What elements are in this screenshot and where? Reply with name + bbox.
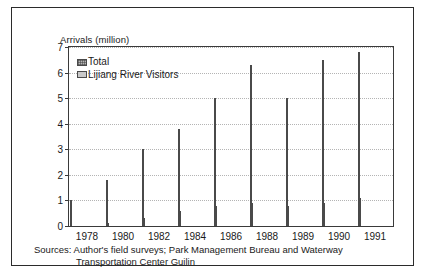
y-axis-tick-label: 4	[57, 118, 63, 129]
bar-lijiang	[215, 206, 217, 226]
bar-lijiang	[251, 203, 253, 226]
legend-label-total: Total	[88, 56, 109, 69]
source-line-2: Transportation Center Guilin	[34, 256, 404, 268]
y-axis-tick-mark	[65, 73, 69, 74]
chart-legend: Total Lijiang River Visitors	[77, 56, 178, 81]
y-axis-tick-mark	[65, 47, 69, 48]
y-axis-tick-mark	[65, 98, 69, 99]
y-axis-tick-label: 5	[57, 93, 63, 104]
x-axis-tick-label: 1986	[220, 231, 242, 242]
y-axis-tick-label: 1	[57, 195, 63, 206]
x-axis-tick-label: 1984	[184, 231, 206, 242]
legend-item-lijiang: Lijiang River Visitors	[77, 69, 178, 82]
y-axis-tick-label: 2	[57, 169, 63, 180]
legend-item-total: Total	[77, 56, 178, 69]
bar-group	[213, 47, 249, 226]
bar-lijiang	[323, 203, 325, 226]
bar-total	[250, 65, 252, 226]
bar-lijiang	[143, 218, 145, 226]
y-axis-tick-label: 7	[57, 42, 63, 53]
bar-total	[322, 60, 324, 226]
y-axis-tick-mark	[65, 200, 69, 201]
bar-group	[321, 47, 357, 226]
bar-group	[177, 47, 213, 226]
bar-lijiang	[287, 206, 289, 226]
y-axis-tick-mark	[65, 175, 69, 176]
x-axis-tick-label: 1982	[148, 231, 170, 242]
source-line-1: Sources: Author's field surveys; Park Ma…	[34, 244, 343, 255]
x-axis-tick-label: 1991	[364, 231, 386, 242]
y-axis-tick-mark	[65, 149, 69, 150]
bar-total	[106, 180, 108, 226]
bar-lijiang	[359, 198, 361, 226]
bar-group	[285, 47, 321, 226]
plot-area: Total Lijiang River Visitors 01234567197…	[68, 46, 394, 227]
x-axis-tick-label: 1978	[76, 231, 98, 242]
legend-label-lijiang: Lijiang River Visitors	[88, 69, 178, 82]
x-axis-tick-label: 1989	[292, 231, 314, 242]
bar-total	[70, 200, 72, 226]
figure-frame: Arrivals (million) Total Lijiang River V…	[11, 7, 414, 266]
legend-swatch-lijiang-icon	[77, 71, 87, 78]
y-axis-tick-label: 6	[57, 67, 63, 78]
y-axis-tick-mark	[65, 226, 69, 227]
y-axis-title: Arrivals (million)	[60, 34, 129, 45]
bar-lijiang	[179, 211, 181, 226]
x-axis-tick-label: 1988	[256, 231, 278, 242]
y-axis-tick-label: 3	[57, 144, 63, 155]
x-axis-tick-label: 1980	[112, 231, 134, 242]
source-note: Sources: Author's field surveys; Park Ma…	[34, 244, 404, 267]
x-axis-tick-label: 1990	[328, 231, 350, 242]
bar-group	[249, 47, 285, 226]
bar-group	[357, 47, 393, 226]
bar-lijiang	[107, 223, 109, 226]
y-axis-tick-mark	[65, 124, 69, 125]
bar-total	[142, 149, 144, 226]
y-axis-tick-label: 0	[57, 221, 63, 232]
legend-swatch-total-icon	[77, 59, 87, 66]
